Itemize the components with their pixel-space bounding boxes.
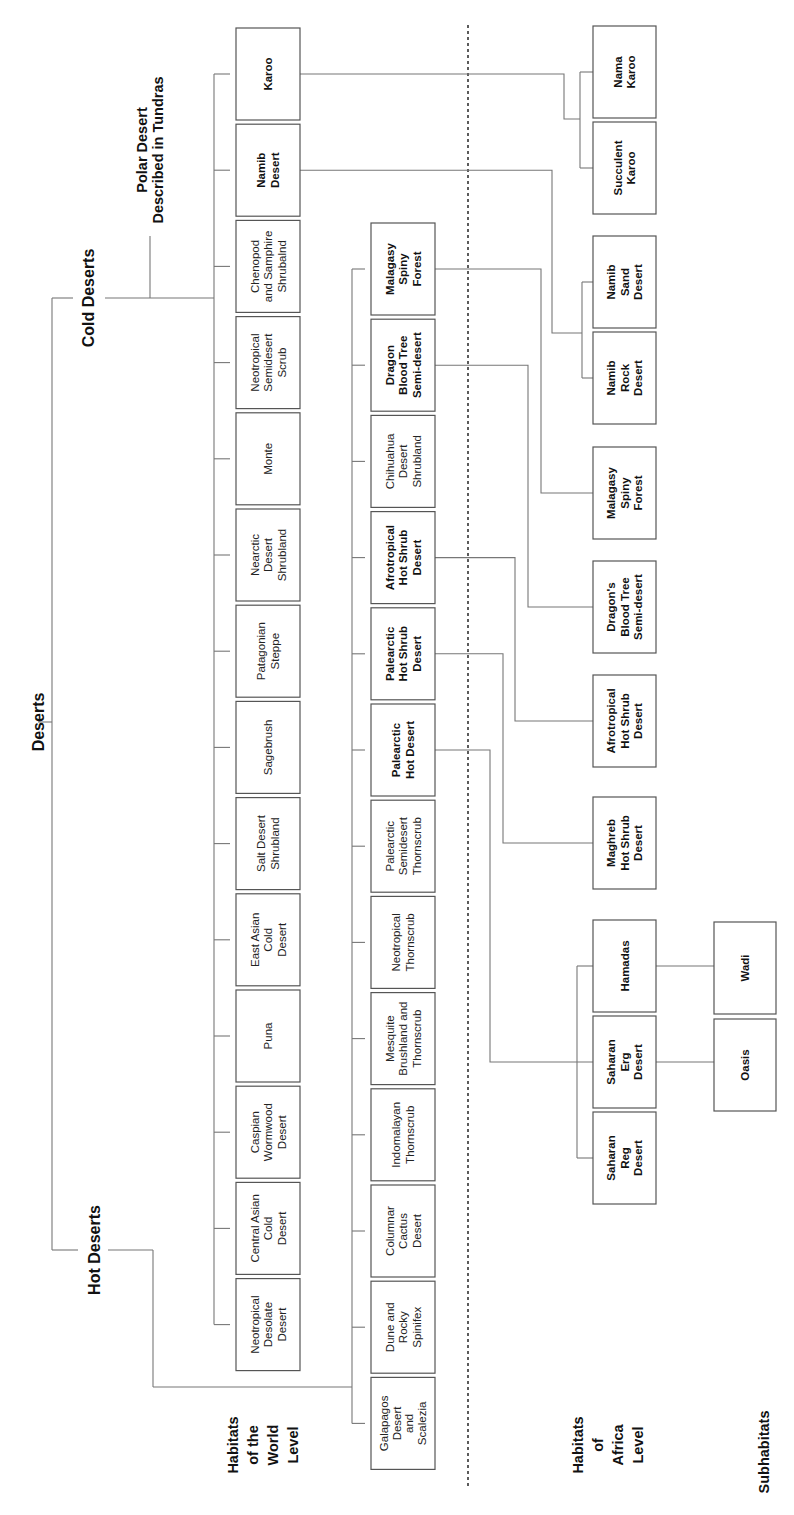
habitat-box-afrotropical-hot-shrub[interactable]: AfrotropicalHot ShrubDesert bbox=[371, 512, 435, 604]
box-label-line: Scrub bbox=[276, 348, 288, 378]
habitat-box-malagasy-spiny-af[interactable]: MalagasySpinyForest bbox=[593, 447, 656, 539]
karoo-connector bbox=[300, 74, 580, 119]
habitat-box-nearctic-desert[interactable]: NearcticDesertShrubland bbox=[236, 509, 300, 601]
habitat-box-dragon-blood[interactable]: DragonBlood TreeSemi-desert bbox=[371, 319, 435, 411]
habitat-box-karoo[interactable]: Karoo bbox=[236, 28, 300, 120]
box-label-line: Central Asian bbox=[249, 1194, 261, 1262]
box-label-line: Semi-desert bbox=[411, 332, 423, 398]
box-label-line: Karoo bbox=[625, 55, 637, 88]
habitat-box-salt-desert[interactable]: Salt DesertShrubland bbox=[236, 798, 300, 890]
habitat-box-maghreb[interactable]: MaghrebHot ShrubDesert bbox=[593, 797, 656, 889]
box-label-line: Shrubalnd bbox=[276, 240, 288, 292]
box-label-line: Desert bbox=[397, 444, 409, 479]
habitat-box-chihuahua[interactable]: ChihuahuaDesertShrubland bbox=[371, 415, 435, 507]
habitat-box-palearctic-hot-desert[interactable]: PalearcticHot Desert bbox=[371, 704, 435, 796]
box-label-line: Nama bbox=[612, 56, 624, 88]
box-label-line: Thornscrub bbox=[404, 1106, 416, 1164]
habitat-box-palearctic-hot-shrub[interactable]: PalearcticHot ShrubDesert bbox=[371, 608, 435, 700]
africa-level-label-line: Level bbox=[630, 1426, 646, 1463]
habitat-box-mesquite[interactable]: MesquiteBrushland andThornscrub bbox=[371, 993, 435, 1085]
box-label: PalearcticHot Desert bbox=[390, 721, 416, 779]
habitat-box-monte[interactable]: Monte bbox=[236, 413, 300, 505]
box-label-line: Desert bbox=[262, 537, 274, 572]
habitat-box-dragons-blood[interactable]: Dragon'sBlood TreeSemi-desert bbox=[593, 561, 656, 653]
habitat-box-namib-sand[interactable]: NamibSandDesert bbox=[593, 236, 656, 328]
habitat-box-chenopod[interactable]: Chenopodand SamphireShrubalnd bbox=[236, 220, 300, 312]
habitat-box-namib-rock[interactable]: NamibRockDesert bbox=[593, 332, 656, 424]
box-label-line: Nearctic bbox=[249, 534, 261, 576]
box-label: Oasis bbox=[739, 1049, 751, 1080]
box-label-line: Brushland and bbox=[397, 1002, 409, 1076]
habitat-box-indomalayan[interactable]: IndomalayanThornscrub bbox=[371, 1089, 435, 1181]
habitat-box-malagasy-spiny[interactable]: MalagasySpinyForest bbox=[371, 223, 435, 315]
box-label-line: Sand bbox=[619, 268, 631, 296]
box-label: NamibDesert bbox=[255, 152, 281, 188]
box-label-line: Erg bbox=[619, 1052, 631, 1071]
box-label-line: Scalezia bbox=[416, 1401, 428, 1445]
box-label: Salt DesertShrubland bbox=[255, 814, 281, 872]
habitat-box-caspian-wormwood[interactable]: CaspianWormwoodDesert bbox=[236, 1086, 300, 1178]
box-label-line: Rock bbox=[619, 363, 631, 392]
box-label-line: Desert bbox=[632, 825, 644, 861]
box-label-line: Shrubland bbox=[276, 529, 288, 581]
box-label-line: Afrotropical bbox=[384, 525, 396, 590]
habitat-box-columnar-cactus[interactable]: ColumnarCactusDesert bbox=[371, 1185, 435, 1277]
habitat-box-dune-rocky[interactable]: Dune andRockySpinifex bbox=[371, 1281, 435, 1373]
diagram-canvas: KarooNamibDesertChenopodand SamphireShru… bbox=[0, 0, 794, 1515]
box-label: Hamadas bbox=[619, 940, 631, 991]
box-label-line: Dragon bbox=[384, 345, 396, 385]
box-label: PalearcticSemidesertThornscrub bbox=[384, 816, 423, 875]
habitat-box-wadi[interactable]: Wadi bbox=[714, 922, 776, 1014]
box-label-line: Karoo bbox=[262, 57, 274, 90]
box-label-line: Saharan bbox=[605, 1039, 617, 1084]
habitat-box-patagonian-steppe[interactable]: PatagonianSteppe bbox=[236, 605, 300, 697]
box-label-line: Neotropical bbox=[390, 913, 402, 971]
box-label-line: Dragon's bbox=[605, 582, 617, 631]
box-label-line: Desert bbox=[632, 1140, 644, 1176]
habitat-box-oasis[interactable]: Oasis bbox=[714, 1019, 776, 1111]
box-label-line: Spinifex bbox=[411, 1306, 423, 1347]
habitat-box-east-asian-cold[interactable]: East AsianColdDesert bbox=[236, 894, 300, 986]
box-label-line: Desert bbox=[632, 264, 644, 300]
box-label-line: Malagasy bbox=[605, 467, 617, 519]
habitat-box-central-asian-cold[interactable]: Central AsianColdDesert bbox=[236, 1182, 300, 1274]
world-level-label: Habitatsof theWorldLevel bbox=[225, 1416, 301, 1473]
box-label-line: Patagonian bbox=[255, 622, 267, 680]
habitat-box-sagebrush[interactable]: Sagebrush bbox=[236, 701, 300, 793]
world-level-label-line: of the bbox=[245, 1425, 261, 1464]
box-label-line: Galapagos bbox=[378, 1395, 390, 1451]
desert-habitat-diagram: KarooNamibDesertChenopodand SamphireShru… bbox=[0, 0, 794, 1515]
box-label-line: Thornscrub bbox=[404, 913, 416, 971]
habitat-box-neotropical-semidesert[interactable]: NeotropicalSemidesertScrub bbox=[236, 317, 300, 409]
habitat-box-puna[interactable]: Puna bbox=[236, 990, 300, 1082]
habitat-box-palearctic-semidesert[interactable]: PalearcticSemidesertThornscrub bbox=[371, 800, 435, 892]
habitat-box-neotropical-desolate[interactable]: NeotropicalDesolateDesert bbox=[236, 1279, 300, 1371]
habitat-box-saharan-reg[interactable]: SaharanRegDesert bbox=[593, 1112, 656, 1204]
afrotropical-connector bbox=[435, 558, 593, 721]
habitat-box-succulent-karoo[interactable]: SucculentKaroo bbox=[593, 122, 656, 214]
box-label-line: Succulent bbox=[612, 140, 624, 195]
habitat-box-namib-desert[interactable]: NamibDesert bbox=[236, 124, 300, 216]
habitat-box-nama-karoo[interactable]: NamaKaroo bbox=[593, 26, 656, 118]
box-label-line: East Asian bbox=[249, 913, 261, 967]
box-label: Sagebrush bbox=[262, 720, 274, 776]
hot-deserts-heading: Hot Deserts bbox=[86, 1205, 103, 1295]
box-label: Karoo bbox=[262, 57, 274, 90]
box-label-line: Desert bbox=[276, 1307, 288, 1342]
habitat-box-hamadas[interactable]: Hamadas bbox=[593, 920, 656, 1012]
box-label-line: Monte bbox=[262, 443, 274, 475]
cold-deserts-heading-line: Cold Deserts bbox=[80, 249, 97, 348]
box-label-line: Hot Desert bbox=[404, 721, 416, 779]
subhabitats-label: Subhabitats bbox=[756, 1411, 772, 1494]
box-label-line: Salt Desert bbox=[255, 814, 267, 872]
habitat-box-afrotropical-af[interactable]: AfrotropicalHot ShrubDesert bbox=[593, 675, 656, 767]
box-label-line: Hot Shrub bbox=[619, 693, 631, 749]
habitat-box-saharan-erg[interactable]: SaharanErgDesert bbox=[593, 1016, 656, 1108]
box-label-line: Hot Shrub bbox=[397, 530, 409, 586]
box-label-line: Blood Tree bbox=[619, 577, 631, 636]
habitat-box-galapagos[interactable]: GalapagosDesertandScalezia bbox=[371, 1377, 435, 1469]
box-label-line: Desert bbox=[276, 1114, 288, 1149]
habitat-box-neotropical-thornscrub[interactable]: NeotropicalThornscrub bbox=[371, 896, 435, 988]
africa-level-label: HabitatsofAfricaLevel bbox=[570, 1416, 646, 1473]
box-label: Dragon'sBlood TreeSemi-desert bbox=[605, 574, 644, 640]
